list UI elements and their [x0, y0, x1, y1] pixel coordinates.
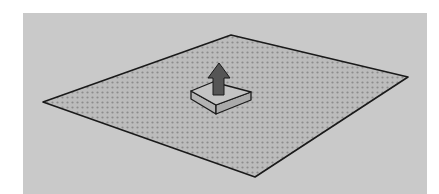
- scene-canvas: [0, 0, 439, 194]
